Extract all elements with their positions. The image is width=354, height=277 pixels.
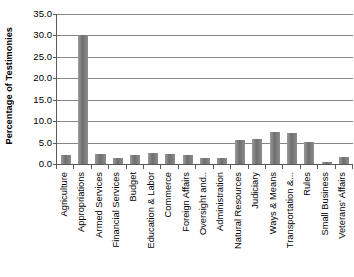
bar <box>130 155 140 164</box>
x-tickmark <box>126 165 127 169</box>
x-axis-label: Agriculture <box>60 172 69 216</box>
bar-slot <box>301 14 318 164</box>
y-axis-tick-labels: 0.05.010.015.020.025.030.035.0 <box>18 14 54 164</box>
bar-slot <box>231 14 248 164</box>
bar <box>61 155 71 164</box>
x-label-slot: Oversight and.. <box>195 170 212 275</box>
bar-slot <box>214 14 231 164</box>
bar-slot <box>161 14 178 164</box>
x-tickmark <box>73 165 74 169</box>
x-label-slot: Veterans' Affairs <box>335 170 352 275</box>
x-label-slot: Education & Labor <box>143 170 160 275</box>
x-label-slot: Commerce <box>160 170 177 275</box>
bar <box>113 158 123 164</box>
bar <box>287 133 297 164</box>
x-axis-ticks <box>56 165 353 169</box>
x-tickmark <box>108 165 109 169</box>
x-tickmark <box>213 165 214 169</box>
x-label-slot: Ways & Means <box>265 170 282 275</box>
bar <box>78 35 88 164</box>
bars-layer <box>57 14 353 164</box>
x-tickmark <box>56 165 57 169</box>
x-axis-label: Appropriations <box>77 172 86 232</box>
y-tick-label: 0.0 <box>39 159 52 169</box>
bar <box>339 157 349 164</box>
x-axis-label: Veterans' Affairs <box>339 172 348 239</box>
x-axis-label: Education & Labor <box>147 172 156 249</box>
bar-slot <box>266 14 283 164</box>
bar-slot <box>92 14 109 164</box>
y-tick-label: 10.0 <box>33 116 52 126</box>
x-axis-label: Financial Services <box>112 172 121 247</box>
bar-slot <box>248 14 265 164</box>
bar-slot <box>336 14 353 164</box>
x-axis-label: Oversight and.. <box>199 172 208 235</box>
x-axis-label: Small Business <box>321 172 330 236</box>
bar-slot <box>318 14 335 164</box>
bar <box>183 155 193 164</box>
bar-slot <box>144 14 161 164</box>
x-tickmark <box>195 165 196 169</box>
bar-chart: Percentage of Testimonies 0.05.010.015.0… <box>0 0 354 277</box>
x-axis-label: Judiciary <box>252 172 261 209</box>
bar-slot <box>127 14 144 164</box>
bar <box>165 154 175 164</box>
bar-slot <box>109 14 126 164</box>
bar <box>217 158 227 164</box>
y-tick-label: 5.0 <box>39 138 52 148</box>
x-tickmark <box>352 165 353 169</box>
x-axis-label: Administration <box>217 172 226 231</box>
x-label-slot: Judiciary <box>247 170 264 275</box>
y-tick-label: 15.0 <box>33 95 52 105</box>
x-tickmark <box>178 165 179 169</box>
x-axis-label: Armed Services <box>95 172 104 238</box>
y-tick-label: 30.0 <box>33 31 52 41</box>
y-tick-label: 35.0 <box>33 9 52 19</box>
x-tickmark <box>160 165 161 169</box>
x-axis-label: Budget <box>130 172 139 201</box>
plot-area <box>56 14 353 165</box>
bar-slot <box>57 14 74 164</box>
bar-slot <box>179 14 196 164</box>
x-tickmark <box>335 165 336 169</box>
bar <box>252 139 262 164</box>
bar <box>322 162 332 164</box>
x-axis-label: Transportation &... <box>286 172 295 248</box>
bar <box>270 132 280 164</box>
y-axis-title-text: Percentage of Testimonies <box>4 27 14 145</box>
x-axis-label: Rules <box>304 172 313 196</box>
bar-slot <box>74 14 91 164</box>
y-tick-label: 20.0 <box>33 73 52 83</box>
x-label-slot: Transportation &... <box>282 170 299 275</box>
x-label-slot: Appropriations <box>73 170 90 275</box>
bar <box>148 153 158 164</box>
x-tickmark <box>282 165 283 169</box>
x-label-slot: Administration <box>213 170 230 275</box>
x-axis-label: Natural Resources <box>234 172 243 249</box>
x-axis-label: Ways & Means <box>269 172 278 234</box>
x-axis-category-labels: AgricultureAppropriationsArmed ServicesF… <box>56 170 352 275</box>
y-tick-label: 25.0 <box>33 52 52 62</box>
bar <box>200 158 210 164</box>
x-label-slot: Foreign Affairs <box>178 170 195 275</box>
x-tickmark <box>248 165 249 169</box>
x-label-slot: Small Business <box>317 170 334 275</box>
bar-slot <box>283 14 300 164</box>
x-label-slot: Armed Services <box>91 170 108 275</box>
bar <box>95 154 105 164</box>
y-axis-title: Percentage of Testimonies <box>0 0 18 172</box>
x-tickmark <box>300 165 301 169</box>
x-tickmark <box>317 165 318 169</box>
x-tickmark <box>143 165 144 169</box>
bar-slot <box>196 14 213 164</box>
bar <box>235 140 245 164</box>
x-tickmark <box>265 165 266 169</box>
x-label-slot: Natural Resources <box>230 170 247 275</box>
x-tickmark <box>91 165 92 169</box>
x-label-slot: Agriculture <box>56 170 73 275</box>
x-axis-label: Foreign Affairs <box>182 172 191 232</box>
x-axis-label: Commerce <box>164 172 173 217</box>
x-label-slot: Budget <box>126 170 143 275</box>
x-tickmark <box>230 165 231 169</box>
x-label-slot: Financial Services <box>108 170 125 275</box>
